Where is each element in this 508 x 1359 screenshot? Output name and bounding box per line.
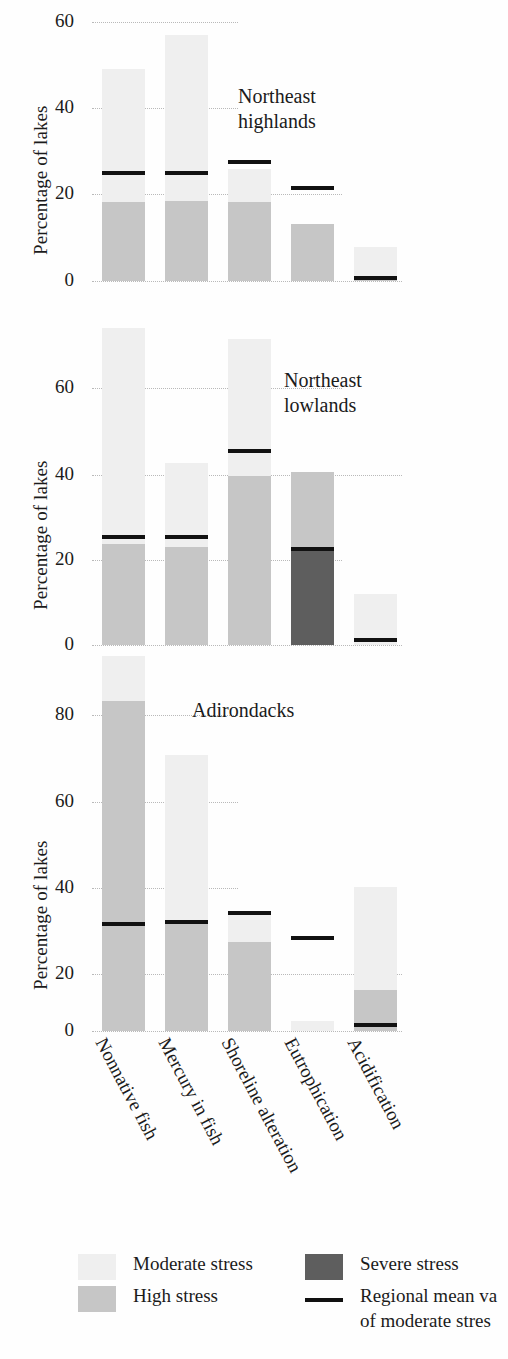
bar-panel-3-eutrophication (291, 1021, 334, 1031)
mean-line-marker (354, 1023, 397, 1027)
legend-swatch-high-stress (78, 1286, 116, 1312)
legend-swatch-moderate-stress (78, 1254, 116, 1280)
segment-high (291, 224, 334, 281)
segment-high (228, 476, 271, 645)
segment-severe (291, 549, 334, 645)
gridline-0-panel-2 (92, 645, 402, 646)
segment-moderate (228, 339, 271, 476)
bar-panel-1-mercury-in-fish (165, 35, 208, 281)
bar-panel-3-acidification (354, 887, 397, 1031)
gridline-0-panel-3 (92, 1031, 402, 1032)
segment-high (228, 202, 271, 281)
legend-label-regional-mean-line-2: of moderate stres (360, 1310, 491, 1332)
segment-high (291, 472, 334, 549)
legend-label-regional-mean-line-1: Regional mean va (360, 1285, 497, 1307)
segment-high (102, 544, 145, 645)
mean-line-marker (102, 922, 145, 926)
segment-moderate (228, 169, 271, 202)
mean-line-marker (354, 638, 397, 642)
segment-moderate (354, 247, 397, 278)
chart-legend: Moderate stress High stress Severe stres… (0, 1248, 508, 1358)
ytick-label-panel-2-60: 60 (30, 377, 74, 396)
ytick-label-panel-1-60: 60 (30, 11, 74, 30)
segment-moderate (228, 911, 271, 942)
category-label-mercury-in-fish: Mercury in fish (154, 1034, 229, 1149)
bar-panel-2-eutrophication (291, 472, 334, 645)
category-label-acidification: Acidification (343, 1034, 409, 1133)
mean-line-marker (102, 171, 145, 175)
segment-high (165, 201, 208, 281)
segment-moderate (102, 69, 145, 202)
mean-line-panel-1-eutrophication (291, 186, 334, 190)
segment-moderate (102, 328, 145, 544)
legend-label-high-stress: High stress (133, 1285, 218, 1307)
ytick-label-panel-2-0: 0 (30, 634, 74, 653)
ytick-label-panel-1-20: 20 (30, 183, 74, 202)
segment-moderate (354, 887, 397, 990)
panel-adirondacks: Percentage of lakes 80 60 40 20 0 (0, 672, 508, 1034)
category-label-eutrophication: Eutrophication (280, 1034, 352, 1144)
panel-northeast-lowlands: Percentage of lakes 60 40 20 0 (0, 310, 508, 650)
mean-line-marker (354, 276, 397, 280)
mean-line-marker (291, 547, 334, 551)
bar-panel-1-shoreline-alteration (228, 169, 271, 281)
mean-line-marker (165, 535, 208, 539)
legend-swatch-regional-mean-line (305, 1298, 343, 1302)
panel-title-northeast-highlands: Northeast highlands (238, 84, 316, 134)
ytick-label-panel-3-40: 40 (30, 877, 74, 896)
segment-high (102, 701, 145, 1031)
ytick-label-panel-3-80: 80 (30, 704, 74, 723)
mean-line-marker (165, 920, 208, 924)
ytick-label-panel-3-60: 60 (30, 791, 74, 810)
segment-high (165, 922, 208, 1031)
legend-label-moderate-stress: Moderate stress (133, 1253, 253, 1275)
mean-line-marker (228, 449, 271, 453)
segment-high (228, 942, 271, 1031)
panel-title-northeast-lowlands: Northeast lowlands (284, 368, 362, 418)
ytick-label-panel-1-40: 40 (30, 97, 74, 116)
gridline-0-panel-1 (92, 281, 402, 282)
bar-panel-3-mercury-in-fish (165, 755, 208, 1031)
mean-line-marker (228, 911, 271, 915)
segment-moderate (165, 755, 208, 922)
segment-moderate (102, 656, 145, 701)
panel-title-adirondacks: Adirondacks (192, 698, 294, 723)
ytick-label-panel-2-40: 40 (30, 464, 74, 483)
category-label-nonnative-fish: Nonnative fish (91, 1034, 163, 1144)
bar-panel-3-nonnative-fish (102, 656, 145, 1031)
gridline-60-panel-1 (92, 22, 238, 23)
mean-line-marker (165, 171, 208, 175)
bar-panel-1-nonnative-fish (102, 69, 145, 281)
stacked-bar-chart-figure: Percentage of lakes 60 40 20 0 (0, 0, 508, 1359)
legend-label-severe-stress: Severe stress (360, 1253, 459, 1275)
segment-high (165, 547, 208, 645)
segment-moderate (291, 1021, 334, 1031)
mean-line-panel-3-eutrophication (291, 936, 334, 940)
bar-panel-1-acidification (354, 247, 397, 281)
bar-panel-2-nonnative-fish (102, 328, 145, 645)
y-axis-title-panel-1: Percentage of lakes (30, 105, 52, 255)
segment-high (102, 202, 145, 281)
panel-northeast-highlands: Percentage of lakes 60 40 20 0 (0, 0, 508, 300)
mean-line-marker (102, 535, 145, 539)
mean-line-panel-1-shoreline-alteration (228, 160, 271, 164)
bar-panel-1-eutrophication (291, 224, 334, 281)
ytick-label-panel-1-0: 0 (30, 270, 74, 289)
bar-panel-2-acidification (354, 594, 397, 645)
segment-moderate (165, 35, 208, 201)
legend-swatch-severe-stress (305, 1254, 343, 1280)
ytick-label-panel-3-20: 20 (30, 963, 74, 982)
bar-panel-3-shoreline-alteration (228, 911, 271, 1031)
bar-panel-2-shoreline-alteration (228, 339, 271, 645)
x-axis-category-labels: Nonnative fish Mercury in fish Shoreline… (0, 1034, 508, 1234)
ytick-label-panel-2-20: 20 (30, 549, 74, 568)
bar-panel-2-mercury-in-fish (165, 463, 208, 645)
